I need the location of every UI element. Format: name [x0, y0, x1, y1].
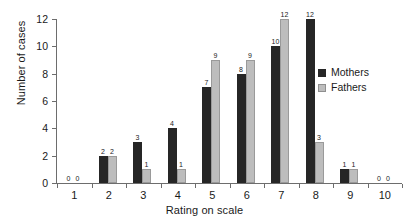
bar-group: 00: [368, 19, 403, 183]
bar-value-label: 1: [347, 161, 361, 168]
x-tick-mark: [299, 184, 300, 188]
x-tick-mark: [57, 184, 58, 188]
bar-value-label: 4: [165, 120, 179, 127]
bar-value-label: 3: [131, 134, 145, 141]
bar-mothers: [237, 74, 246, 183]
plot-area: 00223141798910121231100: [57, 19, 402, 183]
bar-group: 00: [57, 19, 92, 183]
y-tick-label: 4: [26, 123, 48, 133]
bar-mothers: [340, 169, 349, 183]
bar-value-label: 1: [174, 161, 188, 168]
y-tick-label: 2: [26, 151, 48, 161]
bar-fathers: [108, 156, 117, 183]
x-tick-label: 2: [92, 189, 126, 201]
bar-value-label: 0: [71, 175, 85, 182]
x-tick-mark: [368, 184, 369, 188]
x-tick-mark: [92, 184, 93, 188]
bar-value-label: 2: [105, 148, 119, 155]
x-tick-mark: [126, 184, 127, 188]
x-tick-mark: [195, 184, 196, 188]
bar-fathers: [349, 169, 358, 183]
bar-fathers: [280, 19, 289, 183]
bar-group: 123: [299, 19, 334, 183]
legend-item-fathers: Fathers: [318, 81, 369, 94]
bar-group: 31: [126, 19, 161, 183]
legend-label-fathers: Fathers: [331, 82, 367, 93]
x-tick-label: 5: [195, 189, 229, 201]
legend-swatch-mothers-icon: [318, 69, 326, 77]
bar-group: 22: [92, 19, 127, 183]
y-tick-label: 6: [26, 96, 48, 106]
x-tick-label: 1: [57, 189, 91, 201]
bar-group: 1012: [264, 19, 299, 183]
bar-group: 11: [333, 19, 368, 183]
x-tick-label: 7: [264, 189, 298, 201]
x-tick-mark: [402, 184, 403, 188]
chart-legend: Mothers Fathers: [318, 66, 369, 96]
bar-mothers: [99, 156, 108, 183]
legend-label-mothers: Mothers: [331, 67, 369, 78]
bar-value-label: 12: [303, 11, 317, 18]
x-axis-title: Rating on scale: [0, 204, 409, 216]
x-tick-label: 4: [161, 189, 195, 201]
bar-mothers: [306, 19, 315, 183]
bar-fathers: [246, 60, 255, 183]
x-tick-mark: [333, 184, 334, 188]
legend-swatch-fathers-icon: [318, 84, 326, 92]
bar-mothers: [202, 87, 211, 183]
x-tick-label: 3: [126, 189, 160, 201]
bar-chart: Number of cases 024681012 00223141798910…: [0, 0, 409, 224]
bar-mothers: [271, 46, 280, 183]
y-tick-label: 0: [26, 178, 48, 188]
x-tick-mark: [230, 184, 231, 188]
y-tick-label: 8: [26, 69, 48, 79]
bar-mothers: [168, 128, 177, 183]
bar-fathers: [142, 169, 151, 183]
bar-value-label: 1: [140, 161, 154, 168]
x-tick-label: 9: [333, 189, 367, 201]
bar-value-label: 12: [278, 11, 292, 18]
bar-fathers: [211, 60, 220, 183]
bar-group: 41: [161, 19, 196, 183]
y-tick-label: 12: [26, 14, 48, 24]
bar-fathers: [315, 142, 324, 183]
x-tick-label: 6: [230, 189, 264, 201]
y-tick-label: 10: [26, 41, 48, 51]
x-tick-label: 8: [299, 189, 333, 201]
bar-fathers: [177, 169, 186, 183]
bar-group: 79: [195, 19, 230, 183]
bar-value-label: 3: [312, 134, 326, 141]
x-tick-mark: [161, 184, 162, 188]
x-tick-mark: [264, 184, 265, 188]
bar-value-label: 9: [209, 52, 223, 59]
bar-value-label: 9: [243, 52, 257, 59]
x-tick-label: 10: [368, 189, 402, 201]
bar-group: 89: [230, 19, 265, 183]
bar-value-label: 0: [381, 175, 395, 182]
legend-item-mothers: Mothers: [318, 66, 369, 79]
